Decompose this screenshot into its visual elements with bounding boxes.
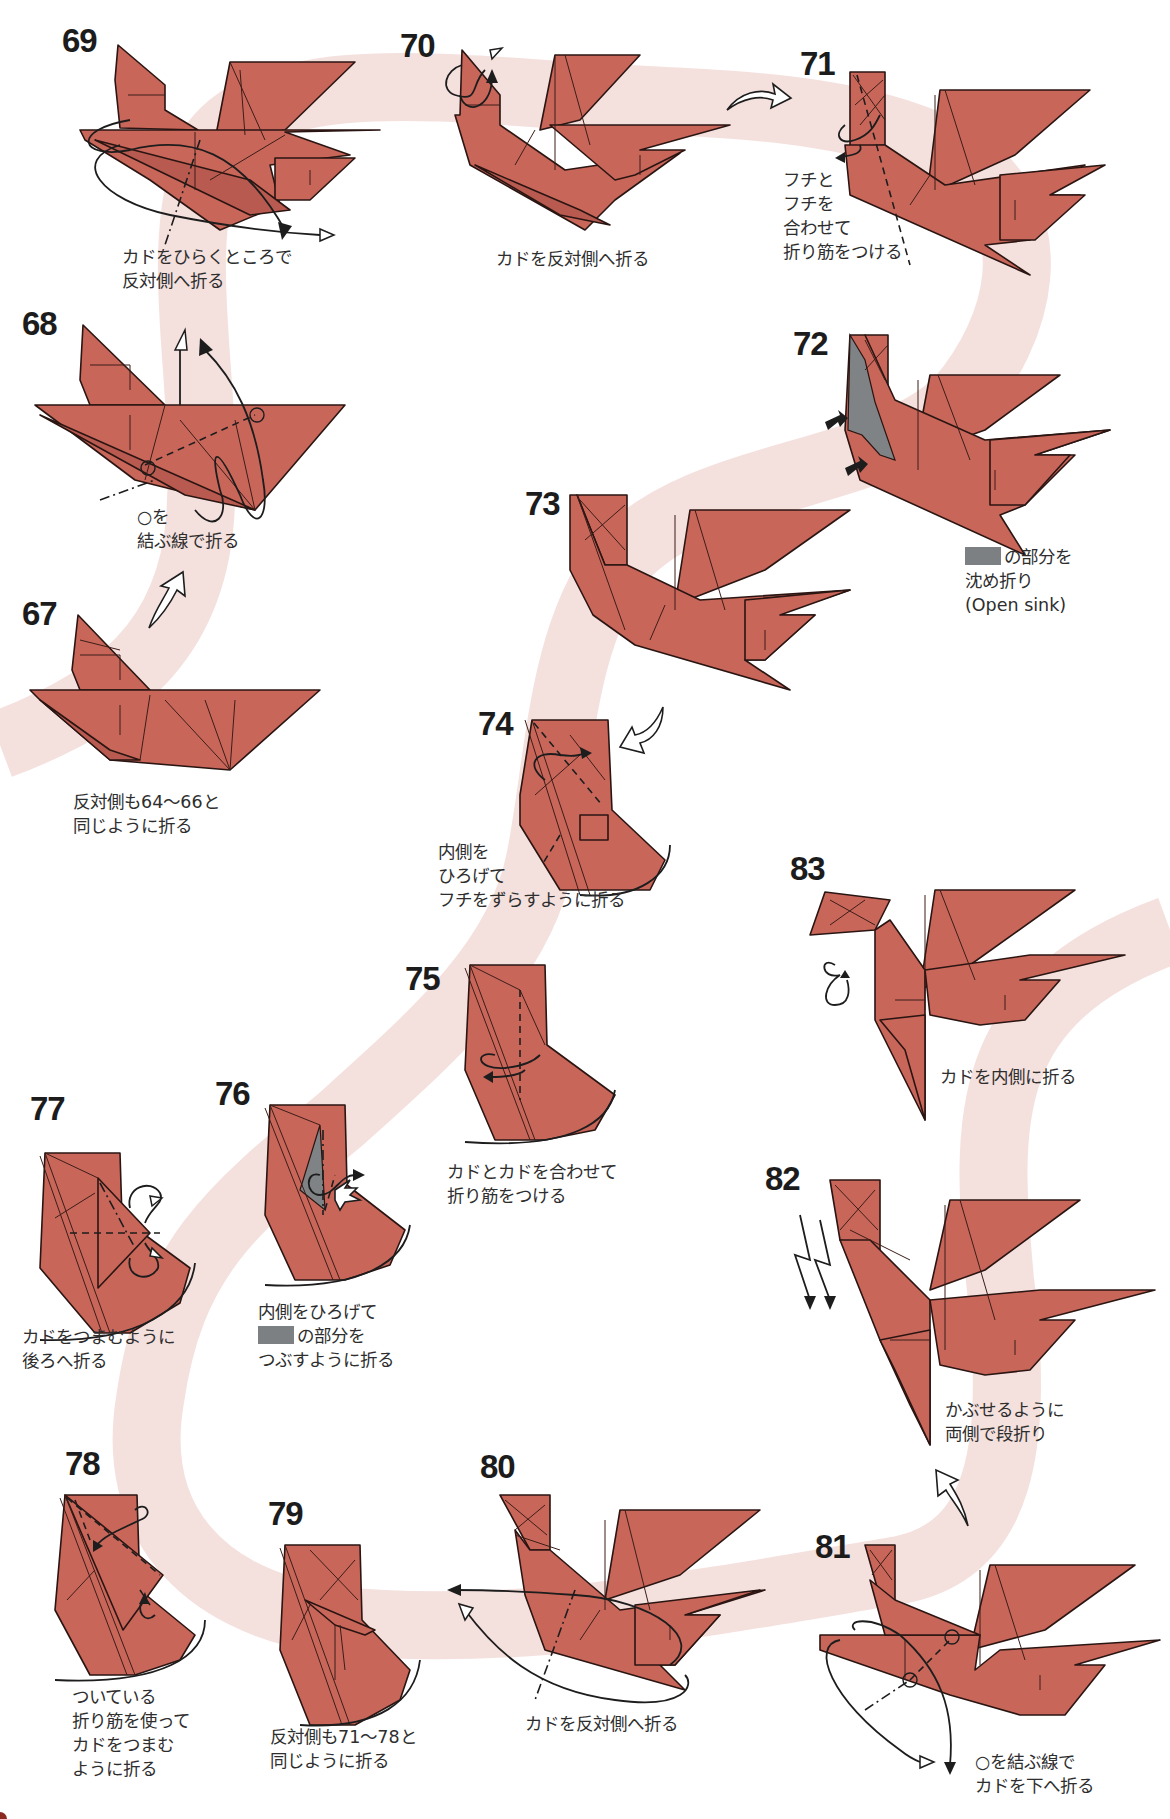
step-caption: 内側を ひろげて フチをずらすように折る bbox=[438, 840, 625, 912]
origami-figure-81 bbox=[810, 1540, 1165, 1780]
origami-figure-76 bbox=[265, 1100, 415, 1305]
step-caption: ○を結ぶ線で カドを下へ折る bbox=[975, 1750, 1094, 1798]
step-caption: ○を 結ぶ線で折る bbox=[137, 505, 239, 553]
step-number: 72 bbox=[793, 325, 828, 363]
step-number: 78 bbox=[65, 1445, 100, 1483]
step-number: 77 bbox=[30, 1090, 65, 1128]
origami-figure-73 bbox=[565, 490, 865, 705]
step-caption: の部分を 沈め折り (Open sink) bbox=[965, 545, 1072, 617]
gray-sink-swatch bbox=[258, 1326, 294, 1344]
step-number: 81 bbox=[815, 1528, 850, 1566]
step-number: 74 bbox=[478, 705, 513, 743]
step-number: 83 bbox=[790, 850, 825, 888]
step-caption: 反対側も64〜66と 同じように折る bbox=[73, 790, 220, 838]
step-number: 75 bbox=[405, 960, 440, 998]
step-number: 79 bbox=[268, 1495, 303, 1533]
step-caption: カドを反対側へ折る bbox=[496, 247, 649, 271]
origami-figure-69 bbox=[70, 40, 370, 250]
step-caption: カドを内側に折る bbox=[940, 1065, 1076, 1089]
next-step-arrow-icon bbox=[618, 705, 668, 755]
next-step-arrow-icon bbox=[928, 1468, 978, 1528]
next-step-arrow-icon bbox=[145, 570, 190, 630]
step-number: 82 bbox=[765, 1160, 800, 1198]
origami-figure-68 bbox=[35, 320, 355, 530]
step-number: 76 bbox=[215, 1075, 250, 1113]
step-caption: カドを反対側へ折る bbox=[525, 1712, 678, 1736]
step-number: 67 bbox=[22, 595, 57, 633]
step-number: 70 bbox=[400, 27, 435, 65]
step-number: 71 bbox=[800, 45, 835, 83]
step-caption: カドをひらくところで 反対側へ折る bbox=[122, 245, 292, 293]
origami-figure-67 bbox=[30, 610, 330, 785]
origami-figure-75 bbox=[465, 960, 625, 1165]
step-caption: カドとカドを合わせて 折り筋をつける bbox=[447, 1160, 617, 1208]
origami-figure-78 bbox=[55, 1490, 215, 1690]
step-caption: フチと フチを 合わせて 折り筋をつける bbox=[783, 168, 902, 264]
step-caption: 内側をひろげて の部分を つぶすように折る bbox=[258, 1300, 394, 1372]
step-caption: ついている 折り筋を使って カドをつまむ ように折る bbox=[72, 1685, 190, 1781]
origami-figure-79 bbox=[280, 1540, 440, 1740]
next-step-arrow-icon bbox=[725, 80, 795, 120]
step-number: 80 bbox=[480, 1448, 515, 1486]
step-caption: かぶせるように 両側で段折り bbox=[945, 1398, 1064, 1446]
origami-figure-72 bbox=[820, 330, 1165, 560]
origami-figure-80 bbox=[455, 1490, 765, 1715]
step-number: 68 bbox=[22, 305, 57, 343]
step-caption: カドをつまむように 後ろへ折る bbox=[22, 1325, 175, 1373]
origami-figure-70 bbox=[440, 45, 750, 235]
origami-figure-77 bbox=[40, 1148, 205, 1348]
step-number: 73 bbox=[525, 485, 560, 523]
gray-sink-swatch bbox=[965, 547, 1001, 565]
step-number: 69 bbox=[62, 22, 97, 60]
origami-figure-83 bbox=[805, 870, 1135, 1130]
step-caption: 反対側も71〜78と 同じように折る bbox=[270, 1725, 417, 1773]
